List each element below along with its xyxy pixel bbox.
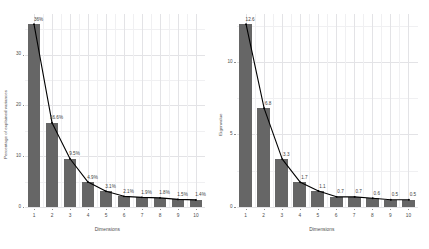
x-axis-tick-label: 10	[189, 214, 203, 219]
x-axis-tick-label: 2	[45, 214, 59, 219]
scree-line	[237, 14, 418, 207]
data-label: 12.6	[246, 18, 255, 23]
x-axis-tick-label: 3	[63, 214, 77, 219]
data-point	[353, 196, 355, 198]
x-axis-tick-mark	[178, 209, 179, 211]
data-point	[389, 199, 391, 201]
data-label: 36%	[34, 18, 43, 23]
x-axis-tick-mark	[246, 209, 247, 211]
x-axis-tick-label: 9	[383, 214, 397, 219]
data-point	[245, 23, 247, 25]
x-axis-tick-label: 6	[117, 214, 131, 219]
data-point	[317, 190, 319, 192]
chart-panel-explained-variance: Percentage of explained variances 36%16.…	[0, 0, 215, 249]
x-axis-tick-mark	[160, 209, 161, 211]
data-label: 1.9%	[141, 191, 151, 196]
scree-line	[25, 14, 205, 207]
x-axis-tick-label: 1	[27, 214, 41, 219]
data-point	[69, 158, 71, 160]
data-label: 0.5	[410, 194, 416, 199]
chart-panel-eigenvalue: Eigenvalue 12.66.83.31.71.10.70.70.60.50…	[215, 0, 429, 249]
x-axis-tick-mark	[124, 209, 125, 211]
x-axis-tick-mark	[52, 209, 53, 211]
gridline-horizontal	[25, 207, 205, 208]
y-axis-tick-label: 0	[9, 205, 21, 210]
x-axis-tick-label: 5	[99, 214, 113, 219]
plot-area: 36%16.6%9.5%4.9%3.1%2.1%1.9%1.8%1.5%1.4%	[25, 14, 205, 207]
x-axis-tick-mark	[354, 209, 355, 211]
data-point	[105, 190, 107, 192]
data-point	[159, 197, 161, 199]
x-axis-tick-mark	[70, 209, 71, 211]
x-axis-tick-label: 5	[311, 214, 325, 219]
x-axis-tick-mark	[390, 209, 391, 211]
data-label: 2.1%	[123, 190, 133, 195]
y-axis-tick-label: 5	[221, 132, 233, 137]
data-label: 0.6	[374, 192, 380, 197]
y-axis-tick-mark	[23, 105, 25, 106]
x-axis-tick-label: 7	[347, 214, 361, 219]
x-axis-tick-label: 3	[275, 214, 289, 219]
x-axis-tick-mark	[142, 209, 143, 211]
data-label: 1.5%	[177, 193, 187, 198]
data-label: 0.7	[355, 191, 361, 196]
data-point	[177, 198, 179, 200]
y-axis-tick-label: 0	[221, 205, 233, 210]
plot-inner: 12.66.83.31.71.10.70.70.60.50.5	[237, 14, 418, 207]
x-axis-tick-mark	[408, 209, 409, 211]
x-axis-title: Dimensions	[0, 227, 215, 232]
y-axis-tick-label: 30	[9, 52, 21, 57]
x-axis-tick-mark	[300, 209, 301, 211]
data-point	[51, 122, 53, 124]
data-point	[281, 158, 283, 160]
data-label: 1.8%	[159, 192, 169, 197]
y-axis-title: Eigenvalue	[215, 0, 225, 249]
data-point	[195, 199, 197, 201]
data-label: 1.7	[301, 176, 307, 181]
gridline-horizontal	[237, 207, 418, 208]
data-point	[371, 197, 373, 199]
plot-inner: 36%16.6%9.5%4.9%3.1%2.1%1.9%1.8%1.5%1.4%	[25, 14, 205, 207]
x-axis-tick-label: 2	[257, 214, 271, 219]
data-point	[263, 107, 265, 109]
data-label: 1.4%	[195, 194, 205, 199]
y-axis-tick-mark	[234, 207, 236, 208]
x-axis-tick-mark	[264, 209, 265, 211]
y-axis-tick-label: 10	[9, 154, 21, 159]
data-label: 3.3	[283, 153, 289, 158]
plot-area: 12.66.83.31.71.10.70.70.60.50.5	[237, 14, 418, 207]
data-label: 1.1	[319, 185, 325, 190]
x-axis-tick-mark	[196, 209, 197, 211]
x-axis-tick-mark	[318, 209, 319, 211]
data-point	[33, 23, 35, 25]
data-label: 6.8	[265, 102, 271, 107]
x-axis-tick-label: 8	[153, 214, 167, 219]
data-label: 16.6%	[50, 117, 63, 122]
y-axis-tick-label: 20	[9, 103, 21, 108]
y-axis-tick-mark	[23, 156, 25, 157]
y-axis-tick-mark	[23, 207, 25, 208]
y-axis-title: Percentage of explained variances	[0, 0, 10, 249]
x-axis-tick-mark	[106, 209, 107, 211]
data-point	[299, 181, 301, 183]
x-axis-tick-mark	[282, 209, 283, 211]
x-axis-tick-label: 6	[329, 214, 343, 219]
x-axis-tick-label: 4	[81, 214, 95, 219]
x-axis-tick-label: 7	[135, 214, 149, 219]
x-axis-tick-label: 4	[293, 214, 307, 219]
x-axis-tick-mark	[336, 209, 337, 211]
x-axis-tick-label: 1	[239, 214, 253, 219]
data-point	[335, 196, 337, 198]
x-axis-tick-label: 10	[401, 214, 415, 219]
data-point	[123, 195, 125, 197]
data-label: 0.7	[337, 191, 343, 196]
x-axis-tick-mark	[88, 209, 89, 211]
data-point	[87, 181, 89, 183]
x-axis-tick-label: 8	[365, 214, 379, 219]
y-axis-tick-mark	[234, 134, 236, 135]
scree-plot-figure: Percentage of explained variances 36%16.…	[0, 0, 429, 249]
data-label: 4.9%	[87, 176, 97, 181]
data-label: 0.5	[392, 194, 398, 199]
x-axis-tick-mark	[372, 209, 373, 211]
data-label: 3.1%	[105, 185, 115, 190]
